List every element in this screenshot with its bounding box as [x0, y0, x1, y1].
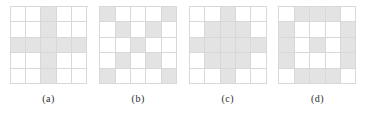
- grid-cell: [251, 38, 266, 53]
- grid-cell: [72, 69, 87, 84]
- grid-cell: [41, 7, 56, 22]
- panel-b-grid: [99, 6, 177, 84]
- grid-cell: [11, 69, 26, 84]
- panel-d: (d): [276, 6, 359, 105]
- grid-cell: [221, 38, 236, 53]
- grid-cell: [146, 22, 161, 37]
- grid-cell: [221, 53, 236, 68]
- grid-cell: [57, 69, 72, 84]
- grid-cell: [131, 53, 146, 68]
- grid-cell: [100, 69, 115, 84]
- grid-cell: [221, 7, 236, 22]
- grid-cell: [162, 7, 177, 22]
- panel-a-caption: (a): [42, 93, 55, 105]
- grid-cell: [279, 69, 294, 84]
- grid-cell: [205, 69, 220, 84]
- grid-cell: [11, 22, 26, 37]
- grid-cell: [41, 69, 56, 84]
- grid-cell: [341, 7, 356, 22]
- grid-cell: [72, 22, 87, 37]
- grid-cell: [326, 7, 341, 22]
- grid-cell: [116, 38, 131, 53]
- panel-c-grid: [189, 6, 267, 84]
- grid-cell: [162, 53, 177, 68]
- grid-cell: [310, 7, 325, 22]
- grid-cell: [57, 38, 72, 53]
- grid-cell: [326, 22, 341, 37]
- grid-cell: [26, 22, 41, 37]
- panel-b: (b): [97, 6, 180, 105]
- grid-cell: [310, 22, 325, 37]
- grid-cell: [11, 38, 26, 53]
- grid-cell: [251, 22, 266, 37]
- grid-cell: [190, 69, 205, 84]
- grid-cell: [326, 69, 341, 84]
- grid-cell: [72, 7, 87, 22]
- grid-cell: [41, 22, 56, 37]
- grid-cell: [205, 38, 220, 53]
- grid-cell: [236, 38, 251, 53]
- grid-cell: [341, 38, 356, 53]
- grid-cell: [236, 7, 251, 22]
- grid-cell: [11, 7, 26, 22]
- grid-cell: [310, 69, 325, 84]
- grid-cell: [310, 38, 325, 53]
- grid-cell: [279, 38, 294, 53]
- grid-cell: [116, 69, 131, 84]
- grid-cell: [146, 7, 161, 22]
- grid-cell: [326, 53, 341, 68]
- grid-cell: [236, 53, 251, 68]
- grid-cell: [162, 38, 177, 53]
- panel-b-caption: (b): [132, 93, 145, 105]
- panel-d-caption: (d): [311, 93, 324, 105]
- grid-cell: [279, 53, 294, 68]
- grid-cell: [190, 7, 205, 22]
- grid-cell: [251, 53, 266, 68]
- grid-cell: [146, 69, 161, 84]
- grid-cell: [72, 38, 87, 53]
- grid-cell: [146, 38, 161, 53]
- grid-cell: [279, 22, 294, 37]
- grid-cell: [251, 69, 266, 84]
- grid-cell: [236, 22, 251, 37]
- grid-cell: [221, 22, 236, 37]
- grid-cell: [236, 69, 251, 84]
- grid-cell: [100, 22, 115, 37]
- figure-container: (a)(b)(c)(d): [0, 0, 365, 119]
- grid-cell: [205, 22, 220, 37]
- grid-cell: [279, 7, 294, 22]
- grid-cell: [57, 53, 72, 68]
- grid-cell: [190, 53, 205, 68]
- grid-cell: [57, 22, 72, 37]
- grid-cell: [100, 53, 115, 68]
- grid-cell: [295, 53, 310, 68]
- grid-cell: [116, 7, 131, 22]
- grid-cell: [341, 53, 356, 68]
- grid-cell: [100, 38, 115, 53]
- grid-cell: [205, 53, 220, 68]
- grid-cell: [190, 22, 205, 37]
- grid-cell: [72, 53, 87, 68]
- grid-cell: [116, 22, 131, 37]
- grid-cell: [26, 7, 41, 22]
- grid-cell: [295, 69, 310, 84]
- grid-cell: [295, 22, 310, 37]
- grid-cell: [131, 22, 146, 37]
- panel-a-grid: [10, 6, 88, 84]
- grid-cell: [57, 7, 72, 22]
- grid-cell: [26, 38, 41, 53]
- grid-cell: [146, 53, 161, 68]
- grid-cell: [326, 38, 341, 53]
- grid-cell: [26, 69, 41, 84]
- grid-cell: [11, 53, 26, 68]
- grid-cell: [162, 69, 177, 84]
- grid-cell: [341, 69, 356, 84]
- grid-cell: [100, 7, 115, 22]
- grid-cell: [131, 69, 146, 84]
- panel-d-grid: [278, 6, 356, 84]
- grid-cell: [190, 38, 205, 53]
- grid-cell: [310, 53, 325, 68]
- grid-cell: [221, 69, 236, 84]
- panel-c: (c): [186, 6, 269, 105]
- grid-cell: [41, 38, 56, 53]
